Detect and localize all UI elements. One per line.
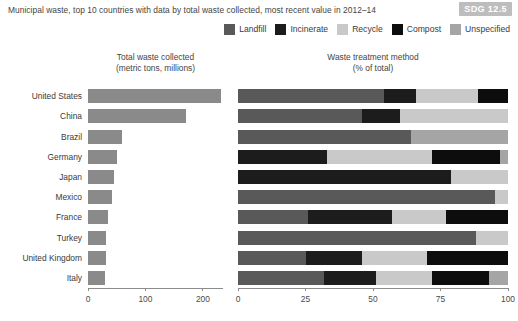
- total-waste-bar: [88, 210, 108, 224]
- treatment-segment-recycle: [362, 251, 427, 265]
- treatment-segment-incinerate: [238, 150, 327, 164]
- country-labels: United StatesChinaBrazilGermanyJapanMexi…: [0, 86, 82, 288]
- axis-tick-label: 0: [236, 294, 241, 304]
- treatment-segment-unspecified: [411, 130, 508, 144]
- treatment-segment-recycle: [392, 210, 446, 224]
- left-panel-title-line2: (metric tons, millions): [88, 63, 223, 74]
- left-panel-title: Total waste collected (metric tons, mill…: [88, 52, 223, 73]
- axis-tick: [238, 288, 239, 291]
- treatment-method-row: [238, 170, 508, 184]
- treatment-segment-compost: [432, 271, 489, 285]
- country-label: United Kingdom: [0, 251, 82, 265]
- country-label: France: [0, 210, 82, 224]
- treatment-segment-compost: [446, 210, 508, 224]
- figure-subtitle: Municipal waste, top 10 countries with d…: [8, 5, 376, 15]
- axis-tick: [202, 288, 203, 291]
- treatment-segment-compost: [478, 89, 508, 103]
- total-waste-bar: [88, 109, 186, 123]
- treatment-method-row: [238, 150, 508, 164]
- legend-swatch-icon: [392, 24, 403, 35]
- total-waste-bar: [88, 231, 106, 245]
- total-waste-row: [88, 271, 223, 285]
- treatment-segment-recycle: [476, 231, 508, 245]
- treatment-segment-recycle: [416, 89, 478, 103]
- treatment-segment-incinerate: [384, 89, 416, 103]
- treatment-method-row: [238, 89, 508, 103]
- treatment-method-row: [238, 109, 508, 123]
- axis-tick: [145, 288, 146, 291]
- total-waste-bar: [88, 130, 122, 144]
- total-waste-row: [88, 170, 223, 184]
- treatment-segment-incinerate: [306, 251, 363, 265]
- legend-item-incinerate: Incinerate: [275, 24, 328, 35]
- total-waste-row: [88, 150, 223, 164]
- treatment-method-row: [238, 130, 508, 144]
- treatment-method-row: [238, 271, 508, 285]
- treatment-method-row: [238, 231, 508, 245]
- country-label: United States: [0, 89, 82, 103]
- treatment-segment-landfill: [238, 231, 476, 245]
- country-label: China: [0, 109, 82, 123]
- legend-label: Unspecified: [465, 24, 510, 34]
- treatment-segment-landfill: [238, 190, 495, 204]
- axis-tick-label: 50: [368, 294, 377, 304]
- axis-tick-label: 100: [138, 294, 152, 304]
- treatment-segment-incinerate: [362, 109, 400, 123]
- total-waste-bar: [88, 89, 221, 103]
- treatment-method-row: [238, 190, 508, 204]
- treatment-segment-landfill: [238, 130, 411, 144]
- right-panel-title-line2: (% of total): [238, 63, 508, 74]
- total-waste-row: [88, 89, 223, 103]
- axis-tick: [88, 288, 89, 291]
- total-waste-row: [88, 190, 223, 204]
- country-label: Turkey: [0, 231, 82, 245]
- legend-label: Compost: [407, 24, 441, 34]
- treatment-segment-recycle: [451, 170, 508, 184]
- country-label: Mexico: [0, 190, 82, 204]
- legend-item-landfill: Landfill: [224, 24, 266, 35]
- treatment-segment-landfill: [238, 210, 308, 224]
- treatment-segment-landfill: [238, 109, 362, 123]
- treatment-segment-incinerate: [308, 210, 392, 224]
- treatment-method-bars: [238, 86, 508, 288]
- right-panel-title-line1: Waste treatment method: [238, 52, 508, 63]
- legend-swatch-icon: [450, 24, 461, 35]
- treatment-segment-unspecified: [489, 271, 508, 285]
- total-waste-row: [88, 109, 223, 123]
- total-waste-row: [88, 210, 223, 224]
- axis-tick-label: 200: [196, 294, 210, 304]
- legend-swatch-icon: [275, 24, 286, 35]
- axis-tick-label: 75: [436, 294, 445, 304]
- country-label: Brazil: [0, 130, 82, 144]
- axis-tick: [305, 288, 306, 291]
- legend-label: Recycle: [352, 24, 383, 34]
- total-waste-bars: [88, 86, 223, 288]
- legend-swatch-icon: [337, 24, 348, 35]
- total-waste-bar: [88, 271, 105, 285]
- axis-tick-label: 0: [86, 294, 91, 304]
- axis-tick: [373, 288, 374, 291]
- treatment-method-row: [238, 210, 508, 224]
- treatment-segment-recycle: [376, 271, 433, 285]
- treatment-segment-unspecified: [500, 150, 508, 164]
- treatment-segment-compost: [427, 251, 508, 265]
- sdg-badge: SDG 12.5: [459, 2, 512, 16]
- treatment-segment-incinerate: [238, 170, 451, 184]
- country-label: Italy: [0, 271, 82, 285]
- treatment-segment-recycle: [327, 150, 432, 164]
- legend-label: Landfill: [239, 24, 266, 34]
- treatment-segment-recycle: [495, 190, 509, 204]
- total-waste-bar: [88, 170, 114, 184]
- treatment-segment-landfill: [238, 89, 384, 103]
- total-waste-row: [88, 130, 223, 144]
- axis-tick: [508, 288, 509, 291]
- treatment-method-row: [238, 251, 508, 265]
- total-waste-bar: [88, 251, 106, 265]
- total-waste-row: [88, 231, 223, 245]
- country-label: Germany: [0, 150, 82, 164]
- axis-tick-label: 25: [301, 294, 310, 304]
- treatment-segment-compost: [432, 150, 500, 164]
- total-waste-bar: [88, 190, 112, 204]
- treatment-segment-incinerate: [324, 271, 375, 285]
- left-panel-title-line1: Total waste collected: [88, 52, 223, 63]
